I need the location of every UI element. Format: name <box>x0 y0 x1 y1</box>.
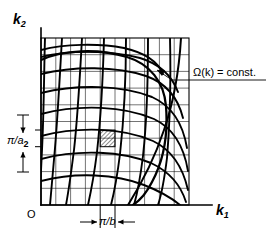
hatched-cell <box>100 130 115 147</box>
y-axis-label: k2 <box>13 12 26 29</box>
x-spacing-label: π/b <box>99 216 116 227</box>
origin-label: O <box>27 209 36 220</box>
omega-contour-label: Ω(k) = const. <box>193 67 256 78</box>
x-axis-label: k1 <box>216 203 229 220</box>
y-spacing-label: π/a2 <box>7 135 29 149</box>
